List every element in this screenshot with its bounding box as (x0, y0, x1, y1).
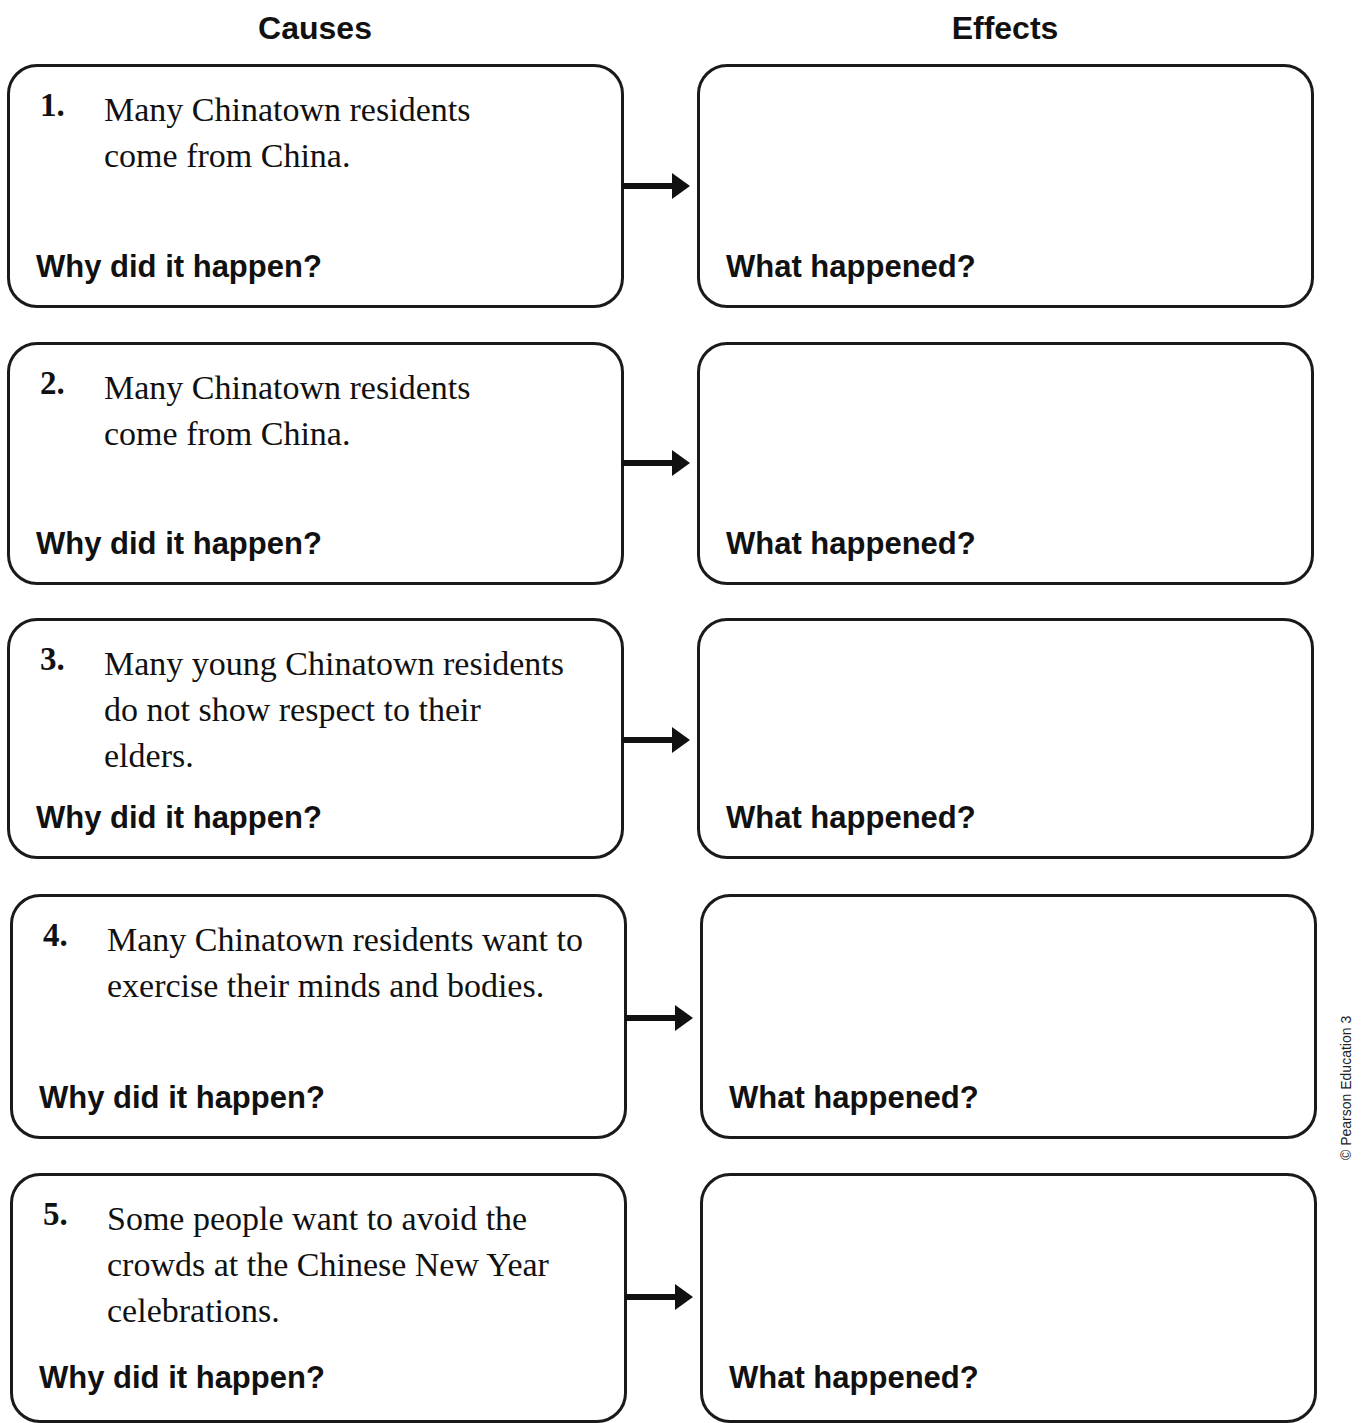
arrow-right-icon (622, 448, 690, 478)
why-prompt: Why did it happen? (36, 800, 322, 836)
effect-box-4[interactable]: What happened? (700, 894, 1317, 1139)
item-number: 1. (40, 87, 65, 124)
effects-heading: Effects (697, 10, 1313, 47)
what-prompt: What happened? (726, 800, 976, 836)
cause-statement: Many Chinatown residents want to exercis… (107, 917, 607, 1009)
why-prompt: Why did it happen? (39, 1360, 325, 1396)
what-prompt: What happened? (729, 1080, 979, 1116)
effect-box-5[interactable]: What happened? (700, 1173, 1317, 1423)
item-number: 3. (40, 641, 65, 678)
cause-box-3: 3. Many young Chinatown residents do not… (7, 618, 624, 859)
arrow-right-icon (622, 171, 690, 201)
effect-box-1[interactable]: What happened? (697, 64, 1314, 308)
item-number: 4. (43, 917, 68, 954)
cause-statement: Many Chinatown residents come from China… (104, 365, 524, 457)
cause-statement: Many Chinatown residents come from China… (104, 87, 524, 179)
cause-statement: Some people want to avoid the crowds at … (107, 1196, 607, 1334)
item-number: 5. (43, 1196, 68, 1233)
arrow-right-icon (625, 1003, 693, 1033)
cause-box-5: 5. Some people want to avoid the crowds … (10, 1173, 627, 1423)
what-prompt: What happened? (729, 1360, 979, 1396)
cause-box-1: 1. Many Chinatown residents come from Ch… (7, 64, 624, 308)
what-prompt: What happened? (726, 249, 976, 285)
why-prompt: Why did it happen? (36, 249, 322, 285)
what-prompt: What happened? (726, 526, 976, 562)
arrow-right-icon (622, 725, 690, 755)
cause-box-4: 4. Many Chinatown residents want to exer… (10, 894, 627, 1139)
cause-statement: Many young Chinatown residents do not sh… (104, 641, 564, 779)
causes-heading: Causes (7, 10, 623, 47)
copyright-notice: © Pearson Education 3 (1338, 1016, 1354, 1160)
effect-box-2[interactable]: What happened? (697, 342, 1314, 585)
arrow-right-icon (625, 1282, 693, 1312)
effect-box-3[interactable]: What happened? (697, 618, 1314, 859)
why-prompt: Why did it happen? (39, 1080, 325, 1116)
item-number: 2. (40, 365, 65, 402)
why-prompt: Why did it happen? (36, 526, 322, 562)
cause-box-2: 2. Many Chinatown residents come from Ch… (7, 342, 624, 585)
